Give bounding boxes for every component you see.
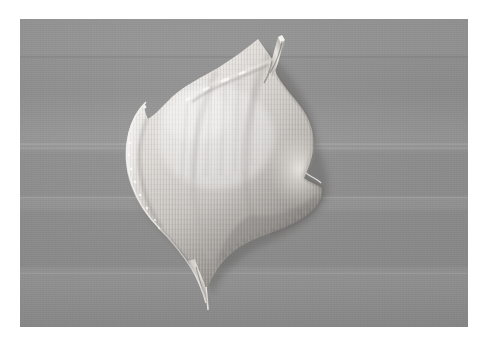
photograph-canvas [0, 0, 489, 345]
white-mat-left [0, 0, 20, 345]
white-mat-top [0, 0, 489, 19]
white-mat-right [468, 0, 489, 345]
white-mat-bottom [0, 327, 489, 345]
photo-panel [20, 19, 468, 327]
backdrop-vignette [20, 19, 468, 327]
